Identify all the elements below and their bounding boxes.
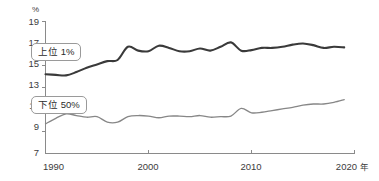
legend-label-bottom-50pct: 下位 50% [31, 96, 87, 114]
legend-label-top-1pct: 上位 1% [31, 43, 81, 61]
chart-container: % 19 17 15 13 11 9 7 [0, 0, 379, 181]
y-axis-ticks [42, 22, 46, 132]
line-chart: % 19 17 15 13 11 9 7 [0, 0, 379, 181]
x-axis-tick-labels: 1990 2000 2010 2020 年 [43, 161, 369, 172]
series-line-top-1pct [46, 42, 345, 75]
y-tick-label: 7 [34, 147, 39, 158]
x-tick-label: 1990 [43, 161, 64, 172]
series-line-bottom-50pct [46, 100, 345, 124]
y-tick-label: 13 [28, 79, 39, 90]
x-tick-label: 2020 [336, 161, 357, 172]
y-axis-unit-label: % [32, 5, 39, 14]
x-axis-ticks [149, 150, 355, 154]
y-tick-label: 9 [34, 121, 39, 132]
y-tick-label: 19 [28, 16, 39, 27]
x-tick-label: 2010 [240, 161, 261, 172]
x-tick-label: 2000 [137, 161, 158, 172]
y-axis-tick-labels: 19 17 15 13 11 9 7 [28, 16, 39, 158]
x-axis-unit-label: 年 [360, 162, 369, 172]
